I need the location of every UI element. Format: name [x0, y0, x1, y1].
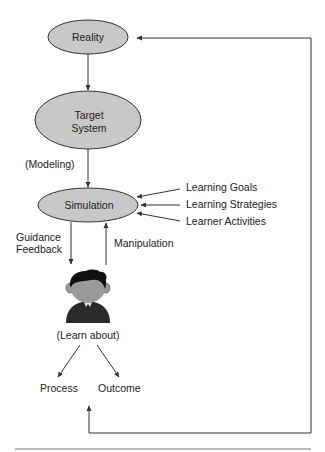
arrow-to-process	[58, 345, 80, 377]
arrow-to-outcome	[97, 345, 119, 377]
arrow-learning-goals	[137, 189, 180, 197]
process-label: Process	[40, 382, 78, 394]
outcome-label: Outcome	[98, 382, 141, 394]
node-simulation: Simulation	[38, 188, 138, 222]
guidance-label: Guidance	[16, 231, 61, 243]
learning-goals-label: Learning Goals	[186, 181, 257, 193]
manipulation-label: Manipulation	[114, 237, 174, 249]
target-system-label-1: Target	[74, 109, 103, 121]
feedback-label: Feedback	[16, 243, 63, 255]
loop-arrow-to-reality	[137, 38, 311, 433]
arrow-learner-activities	[137, 213, 180, 221]
modeling-label: (Modeling)	[25, 158, 75, 170]
learn-about-label: (Learn about)	[56, 329, 119, 341]
reality-label: Reality	[72, 31, 105, 43]
simulation-label: Simulation	[64, 199, 113, 211]
node-reality: Reality	[48, 20, 128, 54]
loop-arrow-to-outcomes	[89, 406, 311, 433]
node-target-system: Target System	[35, 91, 141, 149]
learning-strategies-label: Learning Strategies	[186, 198, 277, 210]
learner-person-icon	[66, 270, 110, 323]
diagram-canvas: Reality Target System (Modeling) Simulat…	[0, 0, 325, 452]
target-system-label-2: System	[71, 122, 106, 134]
learner-activities-label: Learner Activities	[186, 215, 266, 227]
